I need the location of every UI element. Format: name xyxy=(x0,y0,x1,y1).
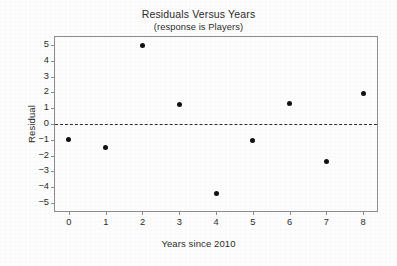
y-axis-tick-label: −5 xyxy=(38,198,49,207)
y-axis-tick-label: −2 xyxy=(38,151,49,160)
y-axis-tick xyxy=(51,187,55,188)
x-axis-tick-label: 5 xyxy=(250,218,255,227)
chart-title-block: Residuals Versus Years (response is Play… xyxy=(0,8,397,33)
y-axis-tick xyxy=(51,92,55,93)
data-point xyxy=(177,102,182,107)
y-axis-tick xyxy=(51,45,55,46)
y-axis-tick xyxy=(51,77,55,78)
x-axis-tick xyxy=(106,211,107,215)
data-point xyxy=(250,138,255,143)
x-axis-tick-label: 2 xyxy=(140,218,145,227)
y-axis-tick xyxy=(51,203,55,204)
y-axis-tick xyxy=(51,171,55,172)
data-point xyxy=(103,145,108,150)
plot-area: 543210−1−2−3−4−5012345678 xyxy=(55,37,377,211)
data-point xyxy=(287,101,292,106)
y-axis-tick-label: 5 xyxy=(44,40,49,49)
data-point xyxy=(324,159,329,164)
y-axis-tick xyxy=(51,140,55,141)
y-axis-tick-label: −4 xyxy=(38,183,49,192)
data-point xyxy=(140,43,145,48)
x-axis-tick-label: 1 xyxy=(103,218,108,227)
x-axis-tick xyxy=(253,211,254,215)
y-axis-label: Residual xyxy=(26,105,37,143)
data-point xyxy=(66,137,71,142)
data-point xyxy=(361,91,366,96)
y-axis-tick-label: 0 xyxy=(44,119,49,128)
y-axis-tick-label: 4 xyxy=(44,56,49,65)
x-axis-tick xyxy=(179,211,180,215)
y-axis-tick xyxy=(51,108,55,109)
x-axis-tick xyxy=(290,211,291,215)
x-axis-tick xyxy=(326,211,327,215)
data-point xyxy=(214,191,219,196)
chart-page: Residuals Versus Years (response is Play… xyxy=(0,0,397,266)
x-axis-tick xyxy=(216,211,217,215)
x-axis-tick-label: 7 xyxy=(324,218,329,227)
x-axis-tick xyxy=(69,211,70,215)
x-axis-tick-label: 0 xyxy=(66,218,71,227)
y-axis-tick xyxy=(51,156,55,157)
y-axis-tick-label: 3 xyxy=(44,72,49,81)
x-axis-tick-label: 3 xyxy=(177,218,182,227)
x-axis-tick-label: 8 xyxy=(360,218,365,227)
x-axis-label: Years since 2010 xyxy=(0,238,397,249)
x-axis-tick-label: 4 xyxy=(213,218,218,227)
y-axis-tick xyxy=(51,61,55,62)
zero-reference-line xyxy=(55,124,377,125)
chart-subtitle: (response is Players) xyxy=(0,21,397,33)
x-axis-tick-label: 6 xyxy=(287,218,292,227)
y-axis-tick-label: −1 xyxy=(38,135,49,144)
y-axis-tick-label: −3 xyxy=(38,167,49,176)
x-axis-tick xyxy=(363,211,364,215)
plot-frame: 543210−1−2−3−4−5012345678 xyxy=(54,36,378,212)
x-axis-tick xyxy=(142,211,143,215)
y-axis-tick-label: 1 xyxy=(44,104,49,113)
y-axis-tick-label: 2 xyxy=(44,88,49,97)
page-title: Residuals Versus Years xyxy=(0,8,397,21)
